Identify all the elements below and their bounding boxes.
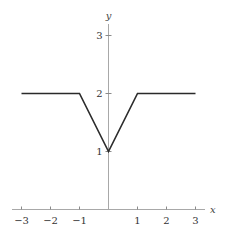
x-tick-label: −1: [72, 215, 87, 226]
y-tick-label: 2: [96, 88, 102, 99]
y-axis-label: y: [105, 10, 112, 21]
x-axis-label: x: [210, 204, 216, 215]
x-tick-label: −3: [14, 215, 29, 226]
y-tick-label: 3: [96, 30, 102, 41]
x-tick-label: −2: [43, 215, 58, 226]
y-tick-label: 1: [96, 146, 102, 157]
chart: x y −3−2−1123 123: [0, 0, 226, 237]
x-tick-label: 1: [134, 215, 140, 226]
x-tick-label: 2: [163, 215, 169, 226]
y-ticks: 123: [96, 30, 111, 157]
x-tick-label: 3: [192, 215, 198, 226]
axes: x y: [12, 10, 216, 215]
